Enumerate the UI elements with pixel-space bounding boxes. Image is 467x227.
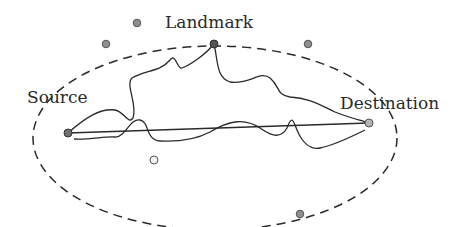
node-outlier-3 (304, 40, 312, 48)
node-landmark (210, 40, 218, 48)
label-landmark: Landmark (165, 12, 254, 32)
label-source: Source (27, 87, 88, 107)
node-outlier-1 (133, 19, 141, 27)
search-region-ellipse (33, 46, 397, 227)
diagram-canvas: Landmark Source Destination (0, 0, 467, 227)
node-outlier-2 (102, 40, 110, 48)
node-outlier-4 (296, 210, 304, 218)
node-destination (365, 119, 373, 127)
node-source (64, 129, 72, 137)
label-destination: Destination (340, 93, 439, 113)
node-inside-1 (150, 156, 158, 164)
landmark-route-path (68, 44, 369, 133)
